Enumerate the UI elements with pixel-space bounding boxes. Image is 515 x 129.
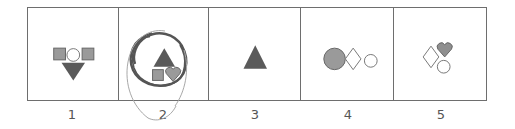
option-4-shapes-icon — [301, 8, 394, 100]
option-3[interactable] — [209, 8, 301, 100]
option-2[interactable] — [119, 8, 210, 100]
option-2-shapes-icon — [119, 8, 209, 100]
option-1[interactable] — [28, 8, 119, 100]
option-3-shapes-icon — [209, 8, 300, 100]
option-label-1: 1 — [62, 107, 82, 122]
option-label-4: 4 — [338, 107, 358, 122]
option-label-5: 5 — [431, 107, 451, 122]
option-5-shapes-icon — [394, 8, 486, 100]
option-5[interactable] — [394, 8, 486, 100]
option-label-3: 3 — [245, 107, 265, 122]
option-label-2: 2 — [153, 107, 173, 122]
option-4[interactable] — [301, 8, 395, 100]
answer-options-frame — [27, 7, 487, 101]
option-1-shapes-icon — [28, 8, 118, 100]
